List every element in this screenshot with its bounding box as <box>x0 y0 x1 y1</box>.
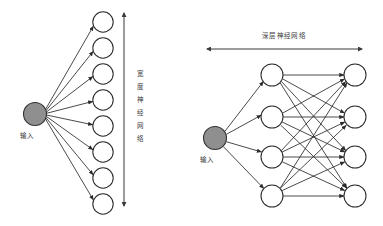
deep-output-node <box>344 106 366 128</box>
wide-annotation-char: 网 <box>137 122 144 130</box>
deep-input-node <box>204 127 227 150</box>
wide-output-node <box>93 168 113 188</box>
wide-output-node <box>93 116 113 136</box>
neural-network-comparison-figure: 输入 宽 度 神 经 网 络 深层神经网络 <box>0 0 383 226</box>
deep-hidden-node <box>261 64 283 86</box>
deep-annotation-label: 深层神经网络 <box>262 31 306 40</box>
figure-background <box>0 0 383 226</box>
wide-output-node <box>93 90 113 110</box>
wide-annotation-char: 经 <box>137 108 144 117</box>
wide-output-node <box>93 194 113 214</box>
wide-output-node <box>93 142 113 162</box>
wide-input-node <box>24 103 47 126</box>
wide-annotation-char: 度 <box>137 82 144 91</box>
wide-annotation-char: 神 <box>137 95 144 104</box>
wide-output-node <box>93 38 113 58</box>
deep-output-node <box>344 64 366 86</box>
wide-output-node <box>93 64 113 84</box>
deep-output-node <box>344 185 366 207</box>
deep-input-label: 输入 <box>200 155 215 164</box>
wide-annotation-char: 宽 <box>137 69 144 78</box>
deep-hidden-node <box>261 185 283 207</box>
deep-hidden-node <box>261 146 283 168</box>
wide-input-label: 输入 <box>20 131 35 140</box>
deep-output-node <box>344 146 366 168</box>
wide-output-node <box>93 12 113 32</box>
wide-annotation-char: 络 <box>137 134 144 143</box>
deep-hidden-node <box>261 106 283 128</box>
